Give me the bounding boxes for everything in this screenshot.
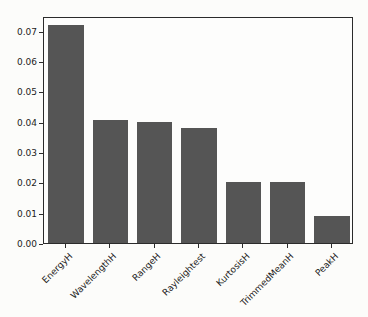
bar-rayleightest <box>181 128 216 243</box>
y-tick-label: 0.03 <box>17 148 37 157</box>
y-tick-mark <box>39 183 43 184</box>
bar-chart-figure: 0.000.010.020.030.040.050.060.07 EnergyH… <box>0 0 368 317</box>
y-tick-mark <box>39 123 43 124</box>
x-tick-mark <box>198 244 199 248</box>
x-tick-mark <box>331 244 332 248</box>
bar-wavelengthh <box>93 120 128 243</box>
y-tick-label: 0.07 <box>17 27 37 36</box>
bar-trimmedmeanh <box>270 182 305 243</box>
x-tick-mark <box>242 244 243 248</box>
x-tick-label: KurtosisH <box>214 251 251 288</box>
bar-energyh <box>48 25 83 243</box>
x-tick-mark <box>109 244 110 248</box>
bars-container <box>44 18 352 243</box>
x-tick-label: WavelengthH <box>69 251 119 301</box>
x-tick-mark <box>287 244 288 248</box>
y-tick-mark <box>39 62 43 63</box>
y-tick-label: 0.06 <box>17 57 37 66</box>
x-tick-label: Rayleightest <box>160 251 207 298</box>
plot-area <box>43 17 353 244</box>
y-tick-label: 0.05 <box>17 88 37 97</box>
x-tick-label: EnergyH <box>40 251 74 285</box>
y-axis-tick-labels: 0.000.010.020.030.040.050.060.07 <box>0 17 37 244</box>
x-axis-tick-labels: EnergyHWavelengthHRangeHRayleightestKurt… <box>43 249 353 311</box>
y-tick-mark <box>39 32 43 33</box>
y-tick-label: 0.01 <box>17 209 37 218</box>
y-tick-mark <box>39 153 43 154</box>
y-tick-label: 0.02 <box>17 179 37 188</box>
x-axis-tick-marks <box>43 244 353 248</box>
y-tick-label: 0.04 <box>17 118 37 127</box>
x-tick-mark <box>154 244 155 248</box>
bar-kurtosish <box>226 182 261 243</box>
y-tick-label: 0.00 <box>17 240 37 249</box>
bar-peakh <box>314 216 349 243</box>
x-tick-label: PeakH <box>313 251 340 278</box>
bar-rangeh <box>137 122 172 243</box>
y-tick-mark <box>39 214 43 215</box>
y-tick-mark <box>39 92 43 93</box>
y-axis-tick-marks <box>39 17 43 244</box>
x-tick-mark <box>65 244 66 248</box>
x-tick-label: RangeH <box>131 251 163 283</box>
